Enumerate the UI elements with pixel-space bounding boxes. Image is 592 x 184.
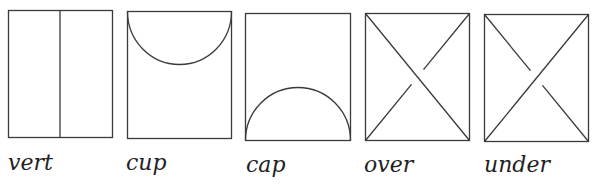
panel-vert: vert [8, 11, 113, 176]
frame-box [128, 12, 232, 139]
panel-cap: cap [246, 14, 351, 178]
panel-over: over [364, 14, 470, 178]
label-cup: cup [126, 150, 167, 175]
under-strand-lower [543, 85, 589, 141]
panel-cup: cup [126, 12, 232, 176]
cup-arc [128, 12, 232, 65]
under-strand-lower [366, 84, 412, 140]
under-strand-upper [424, 14, 470, 70]
cap-arc [246, 88, 351, 141]
under-strand-upper [485, 15, 531, 71]
label-cap: cap [246, 152, 286, 177]
label-vert: vert [8, 150, 53, 175]
label-over: over [364, 152, 415, 177]
tangle-generators-diagram: vert cup cap over under [0, 0, 592, 184]
panel-under: under [484, 15, 589, 178]
label-under: under [484, 152, 551, 177]
frame-box [246, 14, 351, 141]
